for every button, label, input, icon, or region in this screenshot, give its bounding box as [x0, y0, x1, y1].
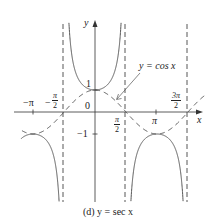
x-tick-label-half-pi: π 2 — [114, 116, 120, 134]
origin-label: 0 — [85, 101, 90, 111]
sec-branch-left — [21, 134, 59, 201]
sec-graph-plot — [0, 0, 216, 224]
x-tick-label-three-half-pi: 3π 2 — [171, 92, 181, 110]
figure-caption: (d) y = sec x — [0, 206, 216, 217]
y-axis-label: y — [84, 18, 88, 28]
cos-annotation-label: y = cos x — [139, 61, 175, 71]
frac-numerator: 3π — [171, 92, 181, 101]
y-tick-label-1: 1 — [86, 79, 91, 89]
x-tick-label-neg-pi: −π — [23, 98, 34, 108]
x-axis-label: x — [197, 115, 201, 125]
x-tick-label-pi: π — [152, 116, 157, 126]
x-tick-label-neg-half-pi: π 2 — [52, 92, 58, 110]
asymptotes — [63, 24, 187, 202]
frac-denominator: 2 — [115, 125, 119, 134]
y-axis-arrow-icon — [93, 20, 98, 27]
sec-branch-right — [131, 134, 183, 201]
frac-numerator: π — [114, 116, 120, 125]
axes — [14, 20, 203, 202]
y-tick-label-neg1: −1 — [77, 129, 88, 139]
frac-denominator: 2 — [53, 101, 57, 110]
x-tick-label-neg-half-pi-sign: − — [45, 98, 51, 108]
cos-annotation-pointer — [117, 73, 140, 99]
frac-denominator: 2 — [174, 101, 178, 110]
frac-numerator: π — [52, 92, 58, 101]
